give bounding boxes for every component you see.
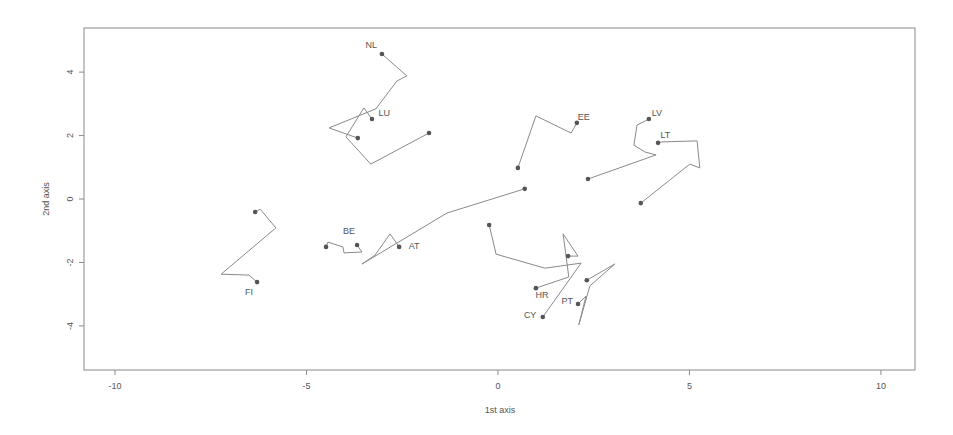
- point-marker: [356, 136, 361, 141]
- trajectory-nl: [329, 52, 407, 141]
- point-marker: [576, 302, 581, 307]
- trajectory-ee: [516, 116, 580, 170]
- point-marker: [255, 280, 260, 285]
- point-marker: [324, 245, 329, 250]
- trajectory-line: [641, 141, 700, 203]
- x-tick-label: 0: [495, 381, 500, 391]
- trajectory-hr: [534, 234, 578, 291]
- x-tick-label: -5: [302, 381, 310, 391]
- series-layer: [221, 52, 700, 325]
- plot-frame: [84, 28, 915, 370]
- trajectory-line: [221, 209, 276, 282]
- trajectory-line: [362, 189, 525, 264]
- trajectory-lt: [639, 141, 700, 206]
- country-label-cy: CY: [524, 310, 537, 320]
- trajectory-fi: [221, 209, 276, 284]
- point-marker: [540, 315, 545, 320]
- x-tick-label: 5: [687, 381, 692, 391]
- point-marker: [585, 278, 590, 283]
- x-tick-label: 10: [876, 381, 886, 391]
- country-label-nl: NL: [365, 40, 377, 50]
- trajectory-line: [518, 116, 577, 168]
- trajectory-line: [588, 119, 656, 179]
- trajectory-chart: -10-50510 -4-2024 NLLUEELVLTFIBEATHRCYPT…: [0, 0, 953, 435]
- point-marker: [647, 117, 652, 122]
- point-marker: [380, 52, 385, 57]
- point-marker: [586, 177, 591, 182]
- trajectory-line: [578, 264, 615, 325]
- point-marker: [355, 243, 360, 248]
- y-axis: -4-2024: [65, 70, 84, 330]
- point-marker: [487, 223, 492, 228]
- trajectory-at: [362, 187, 527, 264]
- trajectory-be: [324, 242, 362, 253]
- country-label-at: AT: [409, 241, 420, 251]
- point-marker: [370, 117, 375, 122]
- country-label-fi: FI: [245, 287, 253, 297]
- trajectory-line: [329, 54, 407, 138]
- country-label-lv: LV: [652, 108, 662, 118]
- country-label-hr: HR: [536, 290, 549, 300]
- point-marker: [397, 245, 402, 250]
- point-marker: [639, 201, 644, 206]
- y-tick-label: -2: [65, 258, 75, 266]
- country-label-be: BE: [343, 226, 355, 236]
- point-marker: [566, 254, 571, 259]
- y-tick-label: 2: [65, 133, 75, 138]
- point-marker: [522, 187, 527, 192]
- country-label-ee: EE: [578, 112, 590, 122]
- point-marker: [516, 166, 521, 171]
- x-axis: -10-50510: [109, 370, 886, 391]
- trajectory-lv: [586, 117, 656, 182]
- y-tick-label: -4: [65, 322, 75, 330]
- trajectory-pt: [576, 264, 615, 325]
- x-tick-label: -10: [109, 381, 122, 391]
- y-tick-label: 4: [65, 70, 75, 75]
- y-axis-label: 2nd axis: [41, 182, 51, 216]
- country-label-lt: LT: [660, 130, 670, 140]
- x-axis-label: 1st axis: [485, 405, 516, 415]
- y-tick-label: 0: [65, 196, 75, 201]
- point-marker: [253, 210, 258, 215]
- point-labels: NLLUEELVLTFIBEATHRCYPT: [245, 40, 671, 320]
- point-marker: [656, 141, 661, 146]
- country-label-lu: LU: [378, 108, 390, 118]
- country-label-pt: PT: [562, 296, 574, 306]
- trajectory-line: [536, 234, 578, 288]
- point-marker: [427, 131, 432, 136]
